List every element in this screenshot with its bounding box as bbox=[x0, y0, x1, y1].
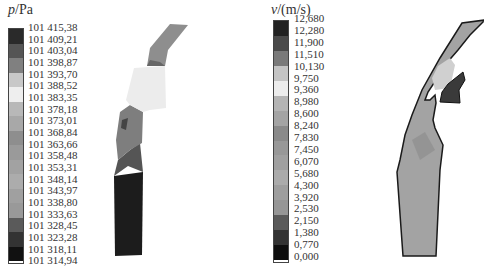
velocity-contour-plot bbox=[240, 0, 484, 272]
pressure-contour-plot bbox=[0, 0, 240, 272]
pressure-panel: p/Pa 101 415,38101 409,21101 403,04101 3… bbox=[0, 0, 240, 272]
velocity-panel: v/(m/s) 12,68012,28011,90011,51010,1309,… bbox=[240, 0, 484, 272]
